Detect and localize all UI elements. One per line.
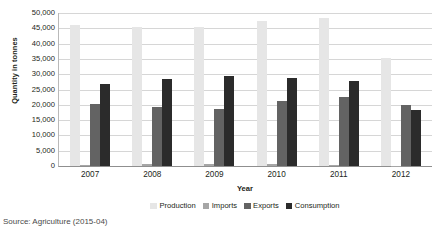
x-axis-tick-label: 2012	[392, 171, 410, 179]
bar-group	[59, 13, 121, 166]
legend-swatch-icon	[244, 203, 251, 210]
legend-swatch-icon	[150, 203, 157, 210]
bar	[80, 165, 90, 166]
legend-label: Exports	[253, 202, 279, 210]
bar	[277, 101, 287, 166]
y-axis-tick-label: 35,000	[32, 55, 55, 63]
bar	[339, 97, 349, 166]
bars-layer	[59, 13, 432, 166]
bar	[401, 105, 411, 166]
bar-group	[246, 13, 308, 166]
bar-group	[308, 13, 370, 166]
bar	[100, 84, 110, 166]
x-axis-tick-label: 2010	[267, 171, 285, 179]
y-axis-title: Quantity in tonnes	[10, 11, 19, 131]
bar	[70, 25, 80, 166]
bar	[329, 165, 339, 166]
bar	[319, 18, 329, 166]
y-axis-tick-label: 25,000	[32, 86, 55, 94]
bar	[411, 110, 421, 166]
source-note: Source: Agriculture (2015-04)	[3, 217, 108, 226]
x-axis-tick-label: 2008	[143, 171, 161, 179]
legend-label: Imports	[212, 202, 237, 210]
y-axis-tick-label: 30,000	[32, 70, 55, 78]
bar	[142, 164, 152, 166]
bar-group	[183, 13, 245, 166]
bar	[162, 79, 172, 166]
bar-chart-figure: Quantity in tonnes 05,00010,00015,00020,…	[0, 0, 439, 228]
x-axis-tick-label: 2009	[205, 171, 223, 179]
bar-group	[370, 13, 432, 166]
y-axis-tick-label: 0	[51, 162, 55, 170]
bar	[391, 166, 401, 167]
bar	[381, 58, 391, 166]
bar	[287, 78, 297, 166]
legend-item[interactable]: Consumption	[286, 202, 340, 210]
x-axis-title: Year	[58, 184, 432, 193]
bar	[224, 76, 234, 166]
y-axis-tick-label: 15,000	[32, 116, 55, 124]
bar	[257, 21, 267, 166]
bar	[349, 81, 359, 166]
x-axis-tick-label: 2007	[81, 171, 99, 179]
legend-label: Consumption	[295, 202, 340, 210]
legend-label: Production	[159, 202, 195, 210]
bar	[132, 27, 142, 166]
legend-item[interactable]: Imports	[203, 202, 237, 210]
plot-area: 05,00010,00015,00020,00025,00030,00035,0…	[58, 13, 432, 167]
y-axis-tick-label: 10,000	[32, 132, 55, 140]
bar-group	[121, 13, 183, 166]
bar	[152, 107, 162, 166]
legend-swatch-icon	[286, 203, 293, 210]
bar	[90, 104, 100, 166]
y-axis-tick-label: 5,000	[36, 147, 55, 155]
legend-item[interactable]: Exports	[244, 202, 279, 210]
x-axis-tick-label: 2011	[330, 171, 348, 179]
legend-swatch-icon	[203, 203, 210, 210]
bar	[204, 164, 214, 166]
y-axis-tick-label: 45,000	[32, 25, 55, 33]
bar	[194, 27, 204, 166]
y-axis-tick-label: 50,000	[32, 9, 55, 17]
chart-legend: ProductionImportsExportsConsumption	[58, 202, 432, 210]
bar	[214, 109, 224, 166]
legend-item[interactable]: Production	[150, 202, 195, 210]
y-axis-tick-label: 20,000	[32, 101, 55, 109]
bar	[267, 164, 277, 166]
y-axis-tick-label: 40,000	[32, 40, 55, 48]
